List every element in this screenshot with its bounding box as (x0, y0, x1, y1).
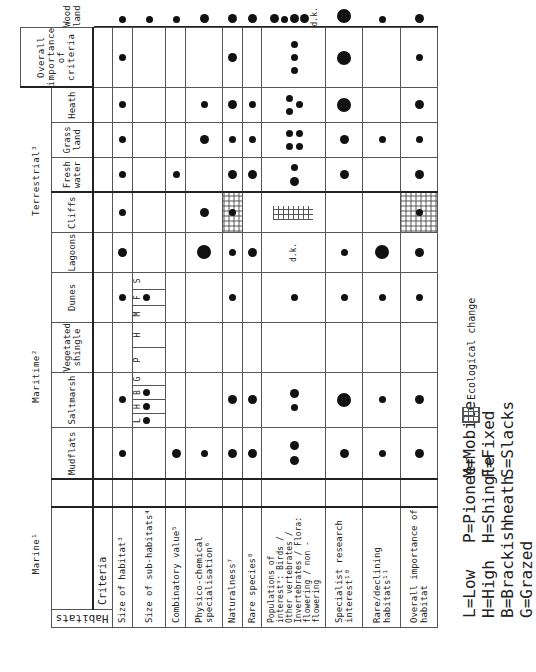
dot-icon (341, 294, 348, 301)
dot-icon (119, 171, 126, 178)
dot-icon (229, 209, 236, 216)
dot-icon (146, 16, 153, 23)
dot-icon (118, 248, 127, 257)
dot-icon (379, 294, 386, 301)
dot-icon (291, 41, 298, 48)
dot-icon (416, 54, 423, 61)
criterion-label: Specialist research interest¹⁰ (326, 508, 363, 628)
dot-icon (281, 16, 288, 23)
dot-icon (415, 248, 424, 257)
dot-icon (228, 100, 237, 109)
dot-icon (270, 14, 279, 23)
dot-icon (200, 135, 209, 144)
criterion-label: Populations of interest⁹: Birds / Other … (262, 508, 326, 628)
criterion-label: Rare/declining habitats¹¹ (363, 508, 400, 628)
dot-icon (249, 136, 256, 143)
legend-hatch-label: Ecological change (466, 298, 477, 400)
dot-icon (340, 449, 349, 458)
dot-icon (340, 170, 349, 179)
dot-icon (228, 53, 237, 62)
dot-icon (379, 16, 386, 23)
dot-icon (119, 16, 126, 23)
dot-icon (228, 14, 237, 23)
dot-icon (337, 393, 351, 407)
habitat-vegetated-shingle: Vegetated shingle (51, 323, 93, 373)
dot-icon (228, 449, 237, 458)
dot-icon (248, 14, 257, 23)
dot-icon (143, 403, 150, 410)
dot-icon (415, 14, 424, 23)
dot-icon (416, 294, 423, 301)
dot-icon (337, 98, 351, 112)
dot-icon (300, 14, 309, 23)
dot-icon (416, 209, 423, 216)
habitat-cliffs: Cliffs (51, 192, 93, 232)
criterion-label: Size of sub-habitats⁴ (132, 508, 166, 628)
dot-icon (416, 136, 423, 143)
dot-icon (119, 294, 126, 301)
criterion-label: Overall importance of habitat (400, 508, 437, 628)
criteria-header: Criteria (93, 508, 113, 610)
dot-icon (143, 294, 150, 301)
habitat-lagoons: Lagoons (51, 232, 93, 272)
dunes-subhabitats: M F S (132, 272, 166, 322)
row-specialist-research: Specialist research interest¹⁰ (326, 27, 363, 627)
marine-blank (51, 480, 93, 508)
group-marine: Marine¹ (21, 480, 52, 628)
ecological-change-hatch (400, 192, 437, 232)
row-size-of-habitat: Size of habitat³ (113, 27, 133, 627)
dot-icon (415, 396, 424, 405)
dot-icon (291, 54, 298, 61)
habitat-grassland: Grass land (51, 122, 93, 157)
habitat-heath: Heath (51, 87, 93, 122)
dot-icon (296, 130, 303, 137)
dot-icon (340, 135, 349, 144)
dot-icon (296, 143, 303, 150)
dot-icon (286, 95, 293, 102)
dot-icon (341, 249, 348, 256)
row-physico-chemical: Physico-chemical specialisation⁶ (185, 27, 222, 627)
dot-icon (415, 100, 424, 109)
row-overall-importance: Overall importance of habitat (400, 27, 437, 627)
dot-icon (229, 294, 236, 301)
dot-icon (415, 170, 424, 179)
habitat-saltmarsh: Saltmarsh (51, 373, 93, 428)
dot-icon (119, 136, 126, 143)
dot-icon (228, 396, 237, 405)
group-maritime: Maritime² (21, 272, 52, 479)
group-terrestrial: Terrestrial³ (21, 87, 52, 272)
habitat-dunes: Dunes (51, 272, 93, 322)
dot-icon (379, 397, 386, 404)
dot-icon (337, 51, 351, 65)
criterion-label: Naturalness⁷ (223, 508, 243, 628)
criterion-label: Combinatory value⁵ (166, 508, 186, 628)
dot-icon (173, 171, 180, 178)
overall-criteria-header: Overall importance of criteria (21, 27, 93, 87)
dot-icon (119, 397, 126, 404)
habitat-mudflats: Mudflats (51, 428, 93, 480)
dot-icon (119, 54, 126, 61)
dot-icon (119, 101, 126, 108)
dot-icon (201, 450, 208, 457)
criterion-label: Physico-chemical specialisation⁶ (185, 508, 222, 628)
dot-icon (415, 449, 424, 458)
dot-icon (290, 14, 299, 23)
hatch-legend-icon (462, 407, 480, 423)
row-size-of-sub-habitats: Size of sub-habitats⁴ L H B G P H M F S (132, 27, 166, 627)
dot-icon (229, 249, 236, 256)
dot-icon (248, 396, 257, 405)
dot-icon (249, 101, 256, 108)
dot-icon (290, 389, 299, 398)
dot-icon (337, 9, 351, 23)
dot-icon (286, 108, 293, 115)
habitat-fresh-water: Fresh water (51, 157, 93, 192)
dot-icon (375, 245, 389, 259)
legend: L=Low H=High B=Brackish G=Grazed P=Pione… (458, 28, 498, 628)
dot-icon (286, 130, 293, 137)
row-combinatory-value: Combinatory value⁵ (166, 27, 186, 627)
dk-note: d.k. (262, 232, 326, 272)
dot-icon (173, 16, 180, 23)
dot-icon (291, 67, 298, 74)
dot-icon (290, 456, 299, 465)
dot-icon (290, 177, 299, 186)
